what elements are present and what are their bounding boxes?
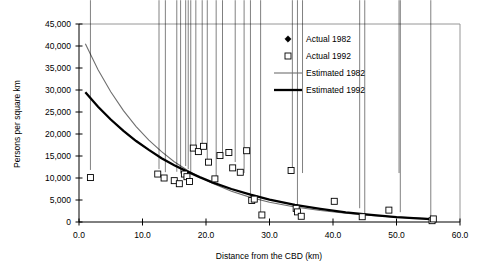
actual-1992-point	[288, 168, 294, 174]
actual-1992-point	[244, 148, 250, 154]
x-tick-label: 60.0	[452, 230, 469, 240]
legend-label: Estimated 1992	[306, 85, 365, 95]
y-tick-label: 20,000	[45, 129, 71, 139]
actual-1992-point	[206, 159, 212, 165]
actual-1992-point	[200, 143, 206, 149]
actual-1992-point	[230, 165, 236, 171]
x-tick-label: 40.0	[325, 230, 342, 240]
chart-container: 05,00010,00015,00020,00025,00030,00035,0…	[0, 0, 487, 268]
plot-frame	[79, 24, 460, 222]
actual-1992-point	[226, 149, 232, 155]
y-tick-label: 40,000	[45, 41, 71, 51]
actual-1992-point	[251, 196, 257, 202]
density-distance-chart: 05,00010,00015,00020,00025,00030,00035,0…	[0, 0, 487, 268]
axis-ticks	[76, 24, 461, 226]
y-tick-label: 10,000	[45, 173, 71, 183]
actual-1992-point	[298, 213, 304, 219]
x-axis-title: Distance from the CBD (km)	[216, 251, 322, 261]
x-tick-label: 30.0	[261, 230, 278, 240]
actual-1992-point	[359, 214, 365, 220]
y-tick-label: 15,000	[45, 151, 71, 161]
actual-1992-point	[87, 175, 93, 181]
legend-label: Estimated 1982	[306, 68, 365, 78]
x-tick-label: 0.0	[73, 230, 85, 240]
chart-legend: Actual 1982Actual 1992Estimated 1982Esti…	[274, 34, 365, 95]
actual-1992-point	[430, 216, 436, 222]
actual-1992-point	[217, 153, 223, 159]
y-axis-title: Persons per square km	[12, 80, 22, 168]
actual-1992-point	[386, 207, 392, 213]
y-tick-label: 35,000	[45, 63, 71, 73]
estimated-1982-curve	[85, 44, 434, 219]
actual-1992-point	[237, 169, 243, 175]
x-tick-label: 20.0	[198, 230, 215, 240]
actual-1992-point	[212, 176, 218, 182]
y-tick-label: 25,000	[45, 107, 71, 117]
y-tick-label: 5,000	[50, 195, 72, 205]
legend-label: Actual 1982	[306, 34, 351, 44]
y-tick-label: 30,000	[45, 85, 71, 95]
legend-marker-actual-1992	[285, 53, 291, 59]
x-tick-label: 50.0	[388, 230, 405, 240]
y-tick-label: 0	[66, 217, 71, 227]
actual-1992-point	[155, 171, 161, 177]
legend-marker-actual-1982	[285, 36, 291, 42]
actual-1992-point	[161, 175, 167, 181]
actual-1992-point	[331, 198, 337, 204]
axis-tick-labels: 05,00010,00015,00020,00025,00030,00035,0…	[45, 19, 469, 240]
x-tick-label: 10.0	[134, 230, 151, 240]
estimated-curves	[85, 44, 434, 220]
actual-1992-point	[259, 212, 265, 218]
actual-data-points	[87, 0, 436, 223]
actual-1992-point	[176, 181, 182, 187]
y-tick-label: 45,000	[45, 19, 71, 29]
actual-1992-point	[186, 179, 192, 185]
legend-label: Actual 1992	[306, 51, 351, 61]
